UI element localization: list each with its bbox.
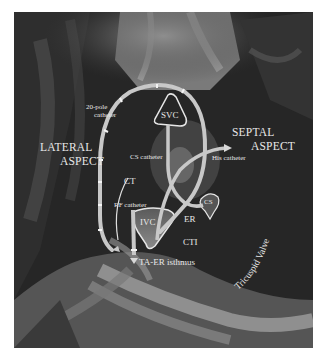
rf-catheter-label: RF catheter [114,202,146,209]
rf-catheter [133,210,134,255]
cs-catheter-label: CS catheter [130,154,162,161]
cs-label: CS [204,199,213,206]
lateral-aspect-label-1: LATERAL [40,142,93,154]
septal-aspect-label-2: ASPECT [251,141,295,153]
ct-label: CT [124,177,136,186]
lateral-aspect-label-2: ASPECT [60,156,104,168]
anatomical-photo: Tricuspid Valve [14,12,313,348]
twenty-pole-label-2: catheter [94,112,116,119]
cti-label: CTI [183,238,198,247]
er-label: ER [184,215,196,224]
septal-aspect-label-1: SEPTAL [232,127,274,139]
ivc-outline [133,208,174,249]
annotation-overlay: Tricuspid Valve [14,12,313,348]
twenty-pole-label-1: 20-pole [86,104,107,111]
svc-label: SVC [161,111,179,120]
ivc-label: IVC [140,218,156,227]
tricuspid-valve-label: Tricuspid Valve [233,237,271,291]
his-catheter-label: His catheter [212,155,246,162]
ct-line [116,178,128,240]
ta-er-isthmus-label: TA-ER isthmus [139,258,195,267]
